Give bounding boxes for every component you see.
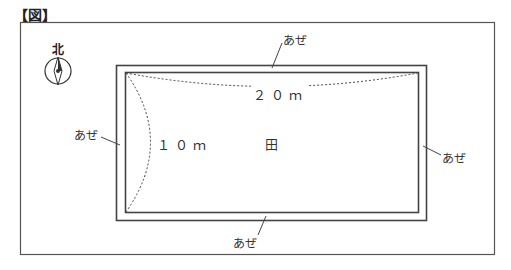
height-dimension-arc [126,73,151,212]
compass-north-label: 北 [52,40,64,57]
compass-icon [45,57,71,85]
levee-label-bottom: あぜ [233,234,257,251]
levee-label-right: あぜ [442,149,466,166]
levee-label-top: あぜ [283,31,307,48]
width-dimension-label: ２０ｍ [251,85,309,104]
height-dimension-label: １０ｍ [155,135,213,154]
leader-bottom [258,216,266,235]
levee-label-left: あぜ [74,126,98,143]
leader-top [272,43,282,68]
rice-field-label: 田 [265,134,278,153]
